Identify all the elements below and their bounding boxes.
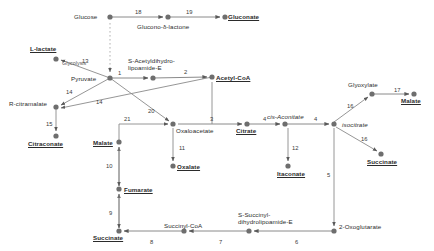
- reaction-number-isocitrate-to-succinate_r: 16: [361, 136, 367, 142]
- metabolite-label-itaconate: Itaconate: [277, 170, 305, 177]
- metabolite-node-acetyl_coa[interactable]: [209, 74, 214, 79]
- metabolite-node-citraconate[interactable]: [53, 133, 58, 138]
- reaction-number-oxaloacetate-to-citrate: 3: [210, 116, 213, 122]
- metabolite-node-r_citramalate[interactable]: [53, 104, 58, 109]
- metabolite-node-malate_left[interactable]: [116, 139, 121, 144]
- metabolite-node-succinyl_coa[interactable]: [181, 228, 186, 233]
- metabolite-label-pyruvate: Pyruvate: [71, 75, 96, 82]
- metabolite-label-succinate_bl: Succinate: [93, 234, 123, 241]
- metabolite-node-oxoglutarate[interactable]: [331, 228, 336, 233]
- metabolite-node-succinate_r[interactable]: [378, 151, 383, 156]
- reaction-number-s_acetyl-to-acetyl_coa: 2: [184, 69, 187, 75]
- metabolite-label-glucono_lactone: Glucono-δ-lactone: [137, 23, 189, 30]
- reaction-number-cis_aconitate-to-isocitrate: 4: [314, 116, 317, 122]
- metabolite-node-oxalate[interactable]: [170, 163, 175, 168]
- reaction-number-succinate_bl-to-fumarate: 9: [109, 210, 112, 216]
- metabolite-label-malate_right: Malate: [401, 97, 421, 104]
- metabolite-node-itaconate[interactable]: [285, 163, 290, 168]
- reaction-number-citrate-to-cis_aconitate: 4: [263, 116, 266, 122]
- reaction-number-pyruvate-to-oxaloacetate: 20: [148, 108, 154, 114]
- metabolite-label-citraconate: Citraconate: [28, 140, 63, 147]
- reaction-number-isocitrate-to-glyoxylate: 16: [347, 103, 353, 109]
- reaction-number-oxaloacetate-to-oxalate: 11: [179, 145, 185, 151]
- pathway-diagram: GlucoseGlucono-δ-lactoneGluconateL-lacta…: [0, 0, 434, 251]
- metabolite-node-pyruvate[interactable]: [107, 75, 112, 80]
- metabolite-label-s_acetyl: S-Acetyldihydro-lipoamide-E: [128, 57, 175, 71]
- metabolite-label-glucose: Glucose: [74, 13, 97, 20]
- reaction-number-oxoglutarate-to-s_succinyl: 6: [295, 239, 298, 245]
- reaction-number-isocitrate-to-oxoglutarate: 5: [327, 172, 330, 178]
- metabolite-label-succinyl_coa: Succinyl-CoA: [164, 222, 202, 229]
- metabolite-label-oxaloacetate: Oxaloacetate: [176, 127, 214, 134]
- metabolite-label-isocitrate: isocitrate: [342, 121, 368, 128]
- metabolite-label-cis_aconitate: cis-Aconitate: [267, 113, 304, 120]
- metabolite-node-oxaloacetate[interactable]: [170, 121, 175, 126]
- metabolite-label-l_lactate: L-lactate: [30, 45, 56, 52]
- metabolite-label-oxoglutarate: 2-Oxoglutarate: [339, 223, 381, 230]
- metabolite-node-s_succinyl[interactable]: [246, 228, 251, 233]
- reaction-number-pyruvate-to-r_citramalate: 14: [66, 89, 72, 95]
- reaction-number-glyoxylate-to-malate_right: 17: [394, 87, 400, 93]
- reaction-number-s_succinyl-to-succinyl_coa: 7: [219, 239, 222, 245]
- metabolite-node-fumarate[interactable]: [116, 186, 121, 191]
- reaction-number-r_citramalate-to-citraconate: 15: [46, 121, 52, 127]
- metabolite-label-oxalate: Oxalate: [177, 163, 200, 170]
- glycolysis-annotation: Glycolysis: [62, 60, 86, 66]
- reaction-number-glucono_lactone-to-gluconate: 19: [186, 9, 192, 15]
- reaction-number-fumarate-to-malate_left: 10: [106, 163, 112, 169]
- metabolite-label-citrate: Citrate: [236, 127, 256, 134]
- edge-s-acetyldihydrolipoamide-acetyl-coa: [153, 77, 207, 78]
- metabolite-node-glucono_lactone[interactable]: [165, 14, 170, 19]
- metabolite-node-isocitrate[interactable]: [331, 121, 336, 126]
- reaction-number-malate_left-to-oxaloacetate: 21: [124, 116, 130, 122]
- metabolite-label-r_citramalate: R-citramalate: [9, 100, 47, 107]
- edge-malate-oxaloacetate: [119, 124, 168, 142]
- edge-isocitrate-glyoxylate: [334, 97, 368, 122]
- reaction-number-glucose-to-glucono_lactone: 18: [135, 9, 141, 15]
- reaction-number-cis_aconitate-to-itaconate: 12: [292, 145, 298, 151]
- metabolite-node-cis_aconitate[interactable]: [282, 121, 287, 126]
- metabolite-label-fumarate: Fumarate: [124, 186, 153, 193]
- metabolite-label-glyoxylate: Glyoxylate: [348, 81, 378, 88]
- metabolite-node-citrate[interactable]: [244, 121, 249, 126]
- metabolite-label-succinate_r: Succinate: [367, 158, 397, 165]
- metabolite-node-glyoxylate[interactable]: [369, 91, 374, 96]
- metabolite-node-malate_right[interactable]: [411, 91, 416, 96]
- pathway-edges-layer: [0, 0, 434, 251]
- metabolite-node-glucose[interactable]: [107, 14, 112, 19]
- reaction-number-succinyl_coa-to-succinate_bl: 8: [150, 239, 153, 245]
- metabolite-node-l_lactate[interactable]: [53, 56, 58, 61]
- metabolite-label-gluconate: Gluconate: [228, 13, 259, 20]
- edge-pyruvate-oxaloacetate: [110, 78, 169, 121]
- metabolite-node-succinate_bl[interactable]: [116, 228, 121, 233]
- reaction-number-acetyl_coa-to-r_citramalate: 14: [96, 99, 102, 105]
- metabolite-label-malate_left: Malate: [93, 139, 113, 146]
- metabolite-label-s_succinyl: S-Succinyl-dihydrolipoamide-E: [238, 211, 293, 225]
- metabolite-label-acetyl_coa: Acetyl-CoA: [216, 74, 250, 81]
- edge-isocitrate-succinate-right: [336, 127, 377, 151]
- metabolite-node-gluconate[interactable]: [222, 14, 227, 19]
- metabolite-node-s_acetyl[interactable]: [150, 75, 155, 80]
- reaction-number-pyruvate-to-s_acetyl: 1: [118, 70, 121, 76]
